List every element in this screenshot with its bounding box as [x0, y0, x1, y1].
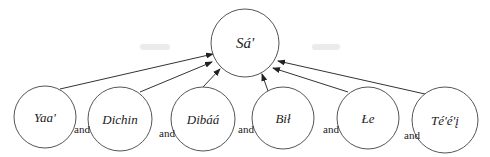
- and-label: and: [404, 129, 420, 141]
- child-node: Dichin: [88, 87, 152, 151]
- child-node: Dibáá: [171, 87, 235, 151]
- child-node-label: Dibáá: [186, 112, 220, 127]
- child-node-label: Bił: [275, 111, 291, 126]
- arrow-edge: [203, 69, 220, 87]
- arrow-edge: [262, 74, 268, 91]
- child-node-label: Té'é'į: [431, 113, 459, 128]
- child-node-label: Łe: [361, 111, 375, 126]
- root-node-label: Sá': [236, 35, 255, 51]
- and-label: and: [238, 123, 254, 135]
- child-node: Yaa': [14, 86, 76, 148]
- child-node-label: Yaa': [34, 110, 56, 125]
- child-node: Té'é'į: [412, 87, 478, 153]
- arrow-edge: [278, 61, 425, 94]
- child-node: Bił: [252, 87, 314, 149]
- word-composition-diagram: Sá' Yaa' Dichin Dibáá Bił Łe Té'é'į and: [0, 0, 490, 157]
- and-label: and: [159, 127, 175, 139]
- root-node: Sá': [211, 9, 279, 77]
- child-node: Łe: [337, 87, 399, 149]
- child-nodes: Yaa' Dichin Dibáá Bił Łe Té'é'į: [14, 86, 478, 153]
- and-label: and: [323, 123, 339, 135]
- and-label: and: [74, 123, 90, 135]
- child-node-label: Dichin: [101, 112, 137, 127]
